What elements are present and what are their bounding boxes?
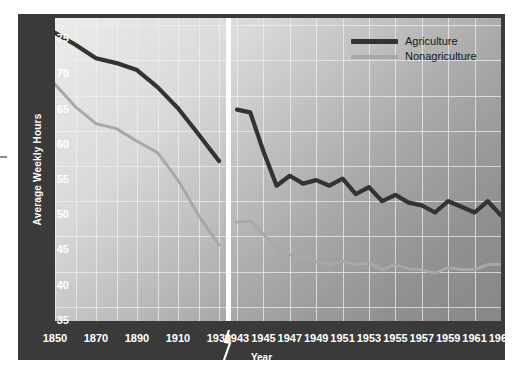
legend-item-nonagriculture: Nonagriculture xyxy=(351,49,477,64)
y-tick-50: 50 xyxy=(57,209,69,220)
y-tick-70: 70 xyxy=(57,68,69,79)
x-tick-1870: 1870 xyxy=(76,332,116,344)
y-tick-65: 65 xyxy=(57,104,69,115)
chart-frame: 757065605550454035 Average Weekly Hours … xyxy=(18,14,505,360)
legend-swatch-agriculture xyxy=(351,39,398,44)
x-axis-title: Year xyxy=(18,352,505,363)
chart-figure: 757065605550454035 Average Weekly Hours … xyxy=(0,0,527,383)
line-nonagriculture-right xyxy=(237,221,501,273)
legend-item-agriculture: Agriculture xyxy=(351,34,477,49)
legend-swatch-nonagriculture xyxy=(351,55,398,59)
x-tick-1850: 1850 xyxy=(35,332,75,344)
axis-break-zigzag-icon xyxy=(222,330,236,360)
y-tick-45: 45 xyxy=(57,244,69,255)
y-tick-40: 40 xyxy=(57,280,69,291)
line-agriculture-right xyxy=(237,110,501,216)
legend-label-nonagriculture: Nonagriculture xyxy=(405,51,477,62)
y-tick-60: 60 xyxy=(57,139,69,150)
x-tick-1963: 1963 xyxy=(481,332,521,344)
axis-break-line xyxy=(226,18,231,321)
x-axis-tick-labels: 1850187018901910193019431945194719491951… xyxy=(36,332,523,352)
edge-tick-mark xyxy=(0,156,7,158)
y-tick-35: 35 xyxy=(57,315,69,326)
legend-label-agriculture: Agriculture xyxy=(405,36,458,47)
chart-legend: AgricultureNonagriculture xyxy=(351,34,477,64)
y-tick-55: 55 xyxy=(57,174,69,185)
y-tick-75: 75 xyxy=(57,33,69,44)
x-tick-1890: 1890 xyxy=(117,332,157,344)
line-nonagriculture-left xyxy=(55,84,219,245)
y-axis-title: Average Weekly Hours xyxy=(32,85,43,255)
x-tick-1910: 1910 xyxy=(158,332,198,344)
